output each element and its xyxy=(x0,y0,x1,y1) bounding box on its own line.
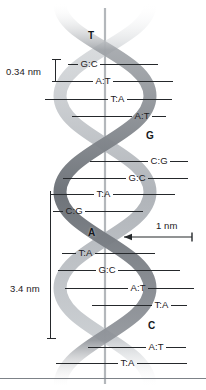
base-pair-row: A:T xyxy=(55,75,173,87)
base-pair-row: A:T xyxy=(65,282,194,294)
base-pair-rung-right xyxy=(152,116,166,117)
base-pair-rung-right xyxy=(113,81,173,82)
base-pair-rung-left xyxy=(68,64,78,65)
base-pair-row: T:A xyxy=(62,247,155,259)
base-pair-label: T:A xyxy=(118,358,137,368)
base-pair-rung-right xyxy=(95,253,155,254)
base-pair-rung-left xyxy=(72,116,132,117)
base-pair-label: T:A xyxy=(94,189,113,199)
measurement-label-rise: 0.34 nm xyxy=(6,67,41,77)
base-pair-row: T:A xyxy=(50,188,175,200)
base-pair-row: G:C xyxy=(63,172,188,184)
free-base-label: G xyxy=(146,131,154,141)
base-pair-rung-left xyxy=(88,347,146,348)
base-pair-row: A:T xyxy=(72,110,166,122)
base-pair-label: C:G xyxy=(148,156,170,166)
base-pair-rung-left xyxy=(65,288,128,289)
measurement-bracket-rise xyxy=(55,59,56,82)
base-pair-rung-left xyxy=(62,253,76,254)
dna-double-helix-figure: G:CA:TT:AA:TC:GG:CT:AC:GT:AG:CA:TT:AA:TT… xyxy=(0,0,206,390)
base-pair-row: A:T xyxy=(88,341,186,353)
measurement-label-pitch: 3.4 nm xyxy=(10,284,40,294)
figure-bottom-rule xyxy=(0,378,206,379)
base-pair-label: T:A xyxy=(76,248,95,258)
measurement-bracket-pitch xyxy=(50,191,51,339)
base-pair-row: C:G xyxy=(53,205,143,217)
base-pair-label: T:A xyxy=(108,94,127,104)
base-pair-rung-right xyxy=(137,363,187,364)
measurement-label-diameter: 1 nm xyxy=(156,221,178,231)
base-pair-row: T:A xyxy=(45,93,172,105)
base-pair-rung-left xyxy=(53,211,63,212)
base-pair-label: A:T xyxy=(128,283,148,293)
base-pair-rung-right xyxy=(148,178,188,179)
base-pair-rung-right xyxy=(118,270,180,271)
base-pair-label: G:C xyxy=(96,265,118,275)
base-pair-label: A:T xyxy=(93,76,113,86)
base-pair-row: G:C xyxy=(68,58,158,70)
base-pair-row: C:G xyxy=(90,155,188,167)
base-pair-label: A:T xyxy=(146,342,166,352)
base-pair-row: T:A xyxy=(56,357,187,369)
base-pair-row: T:A xyxy=(92,299,187,311)
base-pair-rung-left xyxy=(58,270,96,271)
base-pair-rung-right xyxy=(171,305,187,306)
base-pair-rung-left xyxy=(50,194,94,195)
free-base-label: A xyxy=(88,228,95,238)
arrowhead-left-icon xyxy=(124,234,132,240)
free-base-label: T xyxy=(88,31,94,41)
annotation-overlay: G:CA:TT:AA:TC:GG:CT:AC:GT:AG:CA:TT:AA:TT… xyxy=(0,0,206,390)
free-base-label: C xyxy=(148,321,155,331)
base-pair-label: G:C xyxy=(126,173,148,183)
base-pair-row: G:C xyxy=(58,264,180,276)
base-pair-rung-left xyxy=(45,99,108,100)
base-pair-rung-left xyxy=(92,305,152,306)
base-pair-rung-right xyxy=(148,288,194,289)
base-pair-rung-left xyxy=(56,363,118,364)
base-pair-rung-left xyxy=(63,178,126,179)
base-pair-label: C:G xyxy=(63,206,85,216)
base-pair-rung-right xyxy=(85,211,143,212)
base-pair-label: T:A xyxy=(152,300,171,310)
base-pair-label: A:T xyxy=(132,111,152,121)
base-pair-rung-right xyxy=(127,99,172,100)
base-pair-rung-right xyxy=(113,194,175,195)
base-pair-rung-right xyxy=(100,64,158,65)
base-pair-rung-left xyxy=(90,161,148,162)
base-pair-rung-right xyxy=(170,161,188,162)
base-pair-rung-right xyxy=(166,347,186,348)
base-pair-label: G:C xyxy=(78,59,100,69)
